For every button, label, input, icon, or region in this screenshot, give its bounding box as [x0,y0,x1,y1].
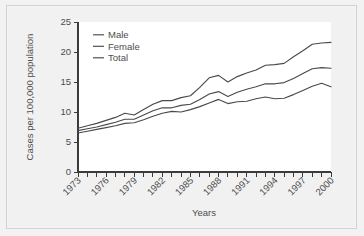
y-tick-label: 25 [60,16,71,27]
x-tick-label: 1997 [285,175,308,198]
x-tick-label: 1985 [173,175,196,198]
chart-legend: MaleFemaleTotal [93,29,140,63]
x-tick-label: 1979 [116,175,139,198]
y-tick-label: 0 [66,166,71,177]
x-tick-label: 1988 [201,175,224,198]
x-tick-labels: 1973197619791982198519881991199419972000 [60,175,336,198]
series-line-total [78,83,331,133]
legend-label-male: Male [108,29,129,40]
x-tick-label: 2000 [313,175,336,198]
y-axis-title: Cases per 100,000 population [24,34,35,161]
y-tick-label: 10 [60,106,71,117]
x-tick-label: 1994 [257,175,280,198]
legend-label-total: Total [108,52,128,63]
figure-root: 0510152025 19731976197919821985198819911… [0,0,364,236]
x-tick-label: 1976 [88,175,111,198]
x-tick-label: 1973 [60,175,83,198]
y-tick-label: 5 [66,136,71,147]
y-tick-label: 15 [60,76,71,87]
y-tick-labels: 0510152025 [60,16,71,177]
series-line-female [78,68,331,131]
x-tick-label: 1991 [229,175,252,198]
x-tick-label: 1982 [145,175,168,198]
y-axis [74,22,78,172]
legend-label-female: Female [108,41,140,52]
line-chart: 0510152025 19731976197919821985198819911… [0,0,364,236]
x-axis-title: Years [192,207,216,218]
y-tick-label: 20 [60,46,71,57]
x-axis [78,172,331,177]
